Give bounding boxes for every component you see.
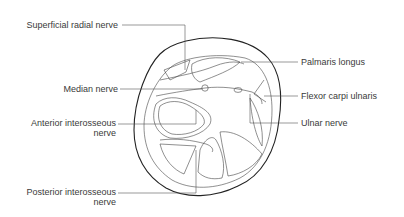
leader-posterior-interosseous-nerve	[118, 150, 196, 193]
label-posterior-interosseous-line1: Posterior interosseous	[8, 187, 116, 197]
inner-fascia-ring	[144, 56, 272, 188]
label-flexor-carpi-ulnaris: Flexor carpi ulnaris	[301, 91, 377, 101]
muscle-compartment-top	[192, 58, 240, 82]
fcu-septum	[254, 80, 266, 102]
label-anterior-interosseous-line2: nerve	[8, 128, 116, 138]
ulnar-artery	[234, 88, 242, 93]
leader-anterior-interosseous-nerve	[118, 110, 196, 124]
extensor-compartment-right	[220, 132, 262, 176]
extensor-compartment-left	[160, 144, 196, 174]
leader-superficial-radial-nerve	[122, 25, 185, 70]
label-anterior-interosseous-line1: Anterior interosseous	[8, 118, 116, 128]
label-anterior-interosseous-nerve: Anterior interosseous nerve	[8, 118, 116, 138]
label-posterior-interosseous-nerve: Posterior interosseous nerve	[8, 187, 116, 207]
label-palmaris-longus: Palmaris longus	[301, 57, 365, 67]
label-median-nerve: Median nerve	[14, 84, 118, 94]
cross-section-drawing	[0, 0, 404, 217]
leader-ulnar-nerve	[250, 94, 298, 123]
deep-flexor-compartment-inner	[159, 102, 205, 135]
deep-flexor-compartment	[154, 98, 211, 139]
forearm-cross-section-diagram: Superficial radial nerve Median nerve An…	[0, 0, 404, 217]
fascia-band-upper	[160, 62, 244, 80]
label-posterior-interosseous-line2: nerve	[8, 197, 116, 207]
label-ulnar-nerve: Ulnar nerve	[301, 118, 348, 128]
ulnar-border-compartment	[250, 98, 262, 146]
label-superficial-radial-nerve: Superficial radial nerve	[14, 20, 118, 30]
extensor-compartment-center	[198, 138, 224, 179]
